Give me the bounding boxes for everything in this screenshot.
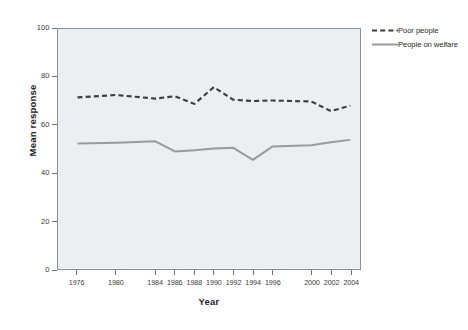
y-axis-tick-mark (52, 270, 57, 271)
x-axis-tick-mark (174, 270, 175, 275)
y-axis-tick-label: 40 (41, 168, 50, 178)
y-axis-tick: 100 (0, 23, 57, 33)
y-axis-tick: 0 (0, 265, 57, 275)
x-axis-tick-mark (76, 270, 77, 275)
x-axis-tick: 1976 (60, 270, 94, 287)
y-axis-tick-label: 0 (45, 265, 49, 275)
plot-area (57, 28, 361, 270)
y-axis-tick-mark (52, 124, 57, 125)
x-axis-tick-label: 2004 (334, 278, 368, 287)
y-axis-tick-label: 60 (41, 120, 50, 130)
y-axis-tick-mark (52, 173, 57, 174)
series-line (77, 140, 350, 160)
x-axis-tick-mark (155, 270, 156, 275)
x-axis-tick-mark (115, 270, 116, 275)
series-line (77, 87, 350, 111)
x-axis-tick-mark (351, 270, 352, 275)
y-axis-tick-mark (52, 76, 57, 77)
legend-item[interactable]: People on welfare (372, 38, 468, 51)
solid-line-icon (372, 40, 398, 49)
x-axis-tick-mark (311, 270, 312, 275)
x-axis-title: Year (57, 296, 361, 307)
x-axis-tick: 1980 (99, 270, 133, 287)
x-axis-tick-mark (272, 270, 273, 275)
x-axis-tick: 2004 (334, 270, 368, 287)
y-axis-title: Mean response (27, 41, 38, 201)
legend-item[interactable]: Poor people (372, 24, 468, 37)
x-axis-tick-mark (213, 270, 214, 275)
y-axis-tick-mark (52, 28, 57, 29)
y-axis-tick-label: 100 (37, 23, 50, 33)
x-axis-tick: 1996 (256, 270, 290, 287)
legend-item-label: People on welfare (398, 40, 458, 49)
x-axis-tick-mark (194, 270, 195, 275)
legend: Poor peoplePeople on welfare (372, 24, 468, 52)
chart-figure: 020406080100 197619801984198619881990199… (0, 0, 468, 330)
x-axis-tick-label: 1976 (60, 278, 94, 287)
x-axis-tick-mark (233, 270, 234, 275)
legend-item-label: Poor people (398, 26, 438, 35)
dashed-line-icon (372, 26, 398, 35)
x-axis-tick-mark (331, 270, 332, 275)
y-axis-tick-mark (52, 221, 57, 222)
y-axis-tick: 20 (0, 217, 57, 227)
y-axis-tick-label: 20 (41, 217, 50, 227)
x-axis-tick-label: 1996 (256, 278, 290, 287)
x-axis-tick-mark (253, 270, 254, 275)
plot-lines (58, 29, 360, 269)
y-axis-tick-label: 80 (41, 71, 50, 81)
x-axis-tick-label: 1980 (99, 278, 133, 287)
